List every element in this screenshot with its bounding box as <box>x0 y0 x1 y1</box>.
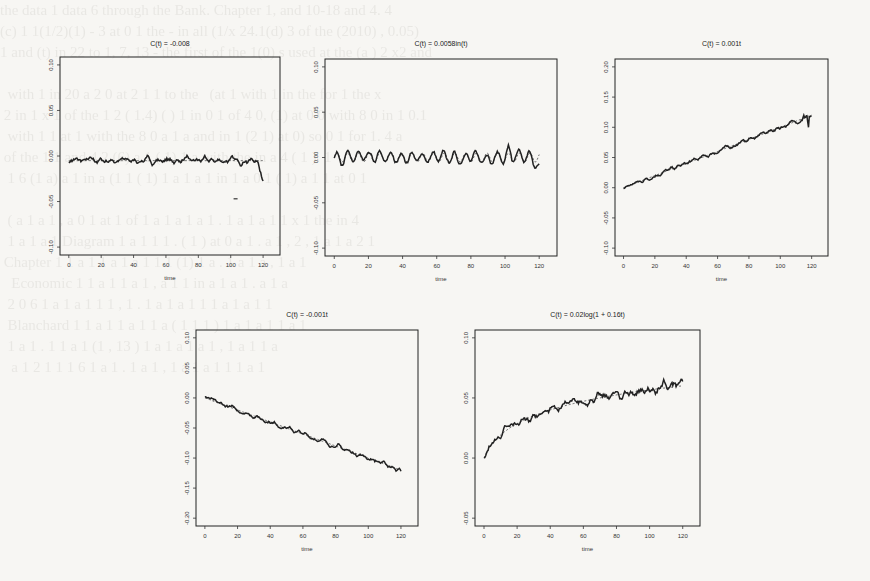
plot-frame <box>196 330 418 526</box>
x-tick-label: 0 <box>203 533 207 539</box>
x-tick-label: 60 <box>714 263 721 269</box>
x-axis-label: time <box>164 275 176 281</box>
chart-panel-5: C(t) = 0.02log(1 + 0.16t)020406080100120… <box>463 311 700 552</box>
y-tick-label: 0.10 <box>313 60 319 72</box>
x-tick-label: 80 <box>746 263 753 269</box>
y-tick-label: 0.00 <box>48 150 54 162</box>
x-tick-label: 120 <box>534 263 545 269</box>
y-tick-label: -0.05 <box>48 194 54 208</box>
y-tick-label: 0.00 <box>463 452 469 464</box>
y-tick-label: 0.00 <box>313 151 319 163</box>
x-tick-label: 100 <box>226 262 237 268</box>
x-axis-label: time <box>582 546 594 552</box>
y-tick-label: -0.15 <box>184 481 190 495</box>
y-tick-label: 0.00 <box>184 391 190 403</box>
y-tick-label: 0.00 <box>603 181 609 193</box>
x-tick-label: 120 <box>678 533 689 539</box>
chart-title: C(t) = 0.001t <box>702 40 741 48</box>
x-tick-label: 20 <box>652 263 659 269</box>
y-tick-label: -0.20 <box>184 511 190 525</box>
x-axis-label: time <box>716 276 728 282</box>
x-tick-label: 100 <box>645 533 656 539</box>
y-tick-label: 0.10 <box>463 331 469 343</box>
x-axis-label: time <box>435 276 447 282</box>
estimated-curve-line <box>484 379 683 457</box>
chart-panel-3: C(t) = 0.001t020406080100120time-0.10-0.… <box>603 40 828 282</box>
x-tick-label: 40 <box>547 533 554 539</box>
chart-panel-2: C(t) = 0.0058in(t)020406080100120time-0.… <box>313 40 557 282</box>
x-tick-label: 60 <box>433 263 440 269</box>
y-tick-label: 0.05 <box>603 151 609 163</box>
x-tick-label: 80 <box>613 533 620 539</box>
y-tick-label: 0.05 <box>313 106 319 118</box>
estimated-curve-line <box>334 145 539 168</box>
plot-frame <box>475 330 700 526</box>
y-tick-label: 0.05 <box>48 104 54 116</box>
estimated-curve-line <box>69 155 263 181</box>
x-tick-label: 0 <box>622 263 626 269</box>
x-tick-label: 80 <box>468 263 475 269</box>
chart-title: C(t) = 0.0058in(t) <box>414 40 467 48</box>
x-axis-label: time <box>301 546 313 552</box>
x-tick-label: 120 <box>258 262 269 268</box>
y-tick-label: 0.05 <box>463 391 469 403</box>
plot-frame <box>60 57 280 255</box>
x-tick-label: 100 <box>363 533 374 539</box>
x-tick-label: 40 <box>267 533 274 539</box>
chart-title: C(t) = -0.008 <box>150 40 190 48</box>
figure-canvas: C(t) = -0.008020406080100120time-0.10-0.… <box>0 0 870 581</box>
x-tick-label: 60 <box>300 533 307 539</box>
x-tick-label: 20 <box>234 533 241 539</box>
x-tick-label: 60 <box>163 262 170 268</box>
x-tick-label: 40 <box>130 262 137 268</box>
y-tick-label: -0.10 <box>603 241 609 255</box>
x-tick-label: 100 <box>500 263 511 269</box>
y-tick-label: -0.05 <box>463 511 469 525</box>
x-tick-label: 0 <box>333 263 337 269</box>
chart-panel-4: C(t) = -0.001t020406080100120time-0.20-0… <box>184 311 418 552</box>
y-tick-label: -0.10 <box>313 241 319 255</box>
y-tick-label: -0.05 <box>313 195 319 209</box>
x-tick-label: 40 <box>399 263 406 269</box>
chart-title: C(t) = -0.001t <box>286 311 327 319</box>
y-tick-label: 0.05 <box>184 361 190 373</box>
x-tick-label: 80 <box>195 262 202 268</box>
x-tick-label: 120 <box>807 263 818 269</box>
x-tick-label: 20 <box>365 263 372 269</box>
y-tick-label: 0.20 <box>603 60 609 72</box>
x-tick-label: 20 <box>98 262 105 268</box>
y-tick-label: -0.10 <box>48 240 54 254</box>
y-tick-label: 0.10 <box>603 121 609 133</box>
x-tick-label: 120 <box>396 533 407 539</box>
x-tick-label: 0 <box>67 262 71 268</box>
y-tick-label: 0.10 <box>184 331 190 343</box>
x-tick-label: 0 <box>482 533 486 539</box>
y-tick-label: -0.10 <box>184 451 190 465</box>
estimated-curve-line <box>205 397 401 472</box>
x-tick-label: 20 <box>514 533 521 539</box>
y-tick-label: -0.05 <box>603 210 609 224</box>
x-tick-label: 80 <box>332 533 339 539</box>
y-tick-label: -0.05 <box>184 421 190 435</box>
x-tick-label: 100 <box>775 263 786 269</box>
y-tick-label: 0.10 <box>48 58 54 70</box>
x-tick-label: 40 <box>683 263 690 269</box>
y-tick-label: 0.15 <box>603 91 609 103</box>
chart-title: C(t) = 0.02log(1 + 0.16t) <box>550 311 625 319</box>
x-tick-label: 60 <box>580 533 587 539</box>
chart-panel-1: C(t) = -0.008020406080100120time-0.10-0.… <box>48 40 280 281</box>
true-curve-line <box>484 386 683 458</box>
plot-frame <box>615 59 828 256</box>
